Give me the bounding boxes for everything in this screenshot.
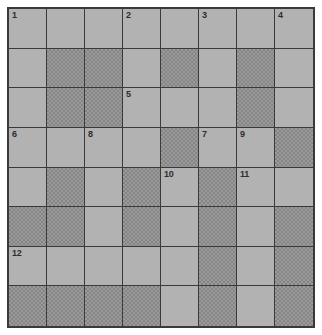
crossword-cell[interactable]	[9, 168, 47, 208]
crossword-cell[interactable]	[47, 9, 85, 49]
crossword-blocked-cell	[161, 128, 199, 168]
crossword-cell[interactable]	[275, 168, 313, 208]
crossword-blocked-cell	[123, 207, 161, 247]
crossword-blocked-cell	[9, 207, 47, 247]
crossword-blocked-cell	[85, 88, 123, 128]
crossword-cell[interactable]: 9	[237, 128, 275, 168]
crossword-cell[interactable]: 8	[85, 128, 123, 168]
crossword-cell[interactable]: 11	[237, 168, 275, 208]
cell-number: 1	[12, 10, 17, 21]
crossword-cell[interactable]	[85, 9, 123, 49]
crossword-cell[interactable]	[237, 247, 275, 287]
cell-number: 10	[164, 169, 173, 180]
crossword-blocked-cell	[85, 286, 123, 326]
crossword-cell[interactable]: 12	[9, 247, 47, 287]
crossword-grid: 123456879101112	[7, 7, 315, 328]
crossword-cell[interactable]	[199, 88, 237, 128]
crossword-cell[interactable]	[47, 247, 85, 287]
cell-number: 5	[126, 89, 131, 100]
crossword-cell[interactable]	[161, 88, 199, 128]
crossword-cell[interactable]	[237, 9, 275, 49]
crossword-blocked-cell	[47, 286, 85, 326]
crossword-cell[interactable]	[123, 49, 161, 89]
cell-number: 7	[202, 129, 207, 140]
crossword-cell[interactable]: 6	[9, 128, 47, 168]
crossword-cell[interactable]	[161, 207, 199, 247]
crossword-blocked-cell	[237, 49, 275, 89]
crossword-blocked-cell	[237, 88, 275, 128]
crossword-blocked-cell	[275, 128, 313, 168]
crossword-blocked-cell	[47, 168, 85, 208]
crossword-cell[interactable]	[123, 247, 161, 287]
crossword-cell[interactable]: 2	[123, 9, 161, 49]
crossword-blocked-cell	[275, 286, 313, 326]
crossword-cell[interactable]	[199, 49, 237, 89]
crossword-cell[interactable]	[161, 9, 199, 49]
crossword-blocked-cell	[9, 286, 47, 326]
crossword-cell[interactable]	[9, 88, 47, 128]
crossword-cell[interactable]: 3	[199, 9, 237, 49]
crossword-cell[interactable]	[47, 128, 85, 168]
cell-number: 2	[126, 10, 131, 21]
crossword-cell[interactable]: 1	[9, 9, 47, 49]
cell-number: 4	[278, 10, 283, 21]
crossword-cell[interactable]	[237, 286, 275, 326]
crossword-blocked-cell	[199, 286, 237, 326]
crossword-puzzle: 123456879101112	[0, 0, 322, 335]
cell-number: 8	[88, 129, 93, 140]
crossword-cell[interactable]	[237, 207, 275, 247]
cell-number: 11	[240, 169, 249, 180]
crossword-cell[interactable]: 7	[199, 128, 237, 168]
crossword-cell[interactable]: 4	[275, 9, 313, 49]
crossword-blocked-cell	[123, 168, 161, 208]
crossword-blocked-cell	[47, 88, 85, 128]
crossword-blocked-cell	[275, 207, 313, 247]
crossword-blocked-cell	[199, 247, 237, 287]
crossword-blocked-cell	[199, 168, 237, 208]
crossword-cell[interactable]: 5	[123, 88, 161, 128]
crossword-blocked-cell	[161, 49, 199, 89]
crossword-blocked-cell	[47, 49, 85, 89]
crossword-blocked-cell	[275, 247, 313, 287]
cell-number: 6	[12, 129, 17, 140]
crossword-cell[interactable]	[85, 247, 123, 287]
crossword-cell[interactable]	[85, 207, 123, 247]
cell-number: 12	[12, 248, 21, 259]
crossword-cell[interactable]	[161, 286, 199, 326]
crossword-cell[interactable]	[161, 247, 199, 287]
crossword-cell[interactable]	[275, 88, 313, 128]
crossword-cell[interactable]	[9, 49, 47, 89]
cell-number: 3	[202, 10, 207, 21]
crossword-cell[interactable]: 10	[161, 168, 199, 208]
crossword-blocked-cell	[123, 286, 161, 326]
crossword-blocked-cell	[199, 207, 237, 247]
crossword-cell[interactable]	[123, 128, 161, 168]
crossword-cell[interactable]	[275, 49, 313, 89]
crossword-blocked-cell	[47, 207, 85, 247]
crossword-blocked-cell	[85, 49, 123, 89]
crossword-cell[interactable]	[85, 168, 123, 208]
cell-number: 9	[240, 129, 245, 140]
